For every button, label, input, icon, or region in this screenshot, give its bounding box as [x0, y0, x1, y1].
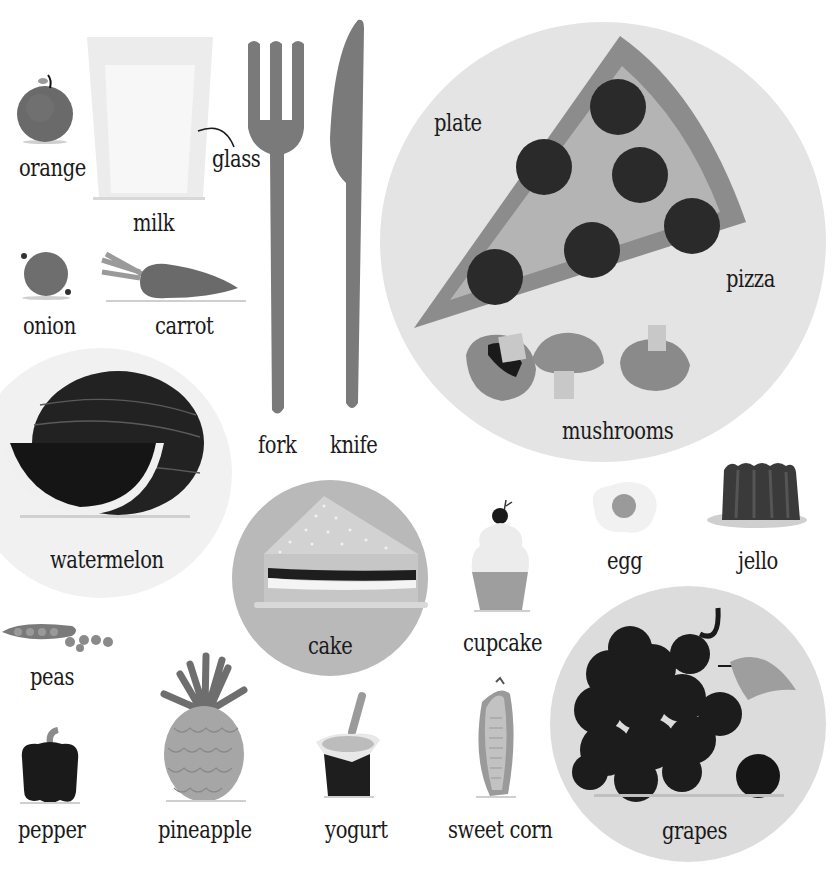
label-jello: jello [738, 548, 778, 573]
label-grapes: grapes [662, 818, 727, 843]
label-cake: cake [308, 633, 352, 658]
onion-icon [16, 250, 76, 302]
label-onion: onion [23, 313, 76, 338]
label-pizza: pizza [726, 266, 775, 291]
jello-icon [704, 460, 810, 532]
bell-pepper-icon [18, 726, 82, 806]
label-milk: milk [133, 210, 174, 235]
label-knife: knife [330, 432, 377, 457]
label-egg: egg [607, 548, 642, 573]
label-mushrooms: mushrooms [562, 418, 673, 443]
corn-icon [470, 678, 520, 802]
fork-icon [244, 38, 314, 418]
label-watermelon: watermelon [50, 547, 164, 572]
label-sweet-corn: sweet corn [448, 817, 552, 842]
label-pepper: pepper [18, 817, 86, 842]
label-orange: orange [19, 155, 86, 180]
glass-of-milk-icon [85, 35, 215, 205]
watermelon-icon [0, 365, 210, 525]
label-fork: fork [258, 432, 297, 457]
cupcake-icon [466, 498, 536, 618]
pineapple-icon [160, 654, 250, 804]
yogurt-icon [312, 692, 382, 802]
label-cupcake: cupcake [463, 630, 542, 655]
mushrooms-icon [462, 325, 702, 405]
label-pineapple: pineapple [158, 817, 252, 842]
fried-egg-icon [588, 478, 662, 538]
carrot-icon [100, 252, 250, 304]
label-yogurt: yogurt [325, 817, 388, 842]
label-carrot: carrot [155, 313, 213, 338]
grapes-icon [570, 604, 810, 804]
cake-slice-icon [246, 496, 426, 616]
label-peas: peas [30, 664, 74, 689]
peas-icon [0, 618, 120, 652]
knife-icon [324, 18, 374, 418]
orange-icon [10, 70, 80, 150]
